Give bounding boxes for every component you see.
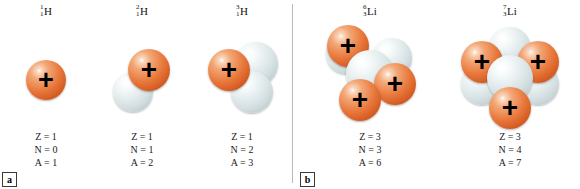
nucleon-counts: Z = 1N = 1A = 2: [92, 130, 192, 169]
element-symbol: H: [140, 6, 148, 17]
atomic-number: 1: [40, 11, 44, 18]
mass-and-atomic-number: 11: [40, 4, 44, 19]
element-symbol: Li: [507, 6, 517, 17]
stat-n: N = 0: [0, 143, 92, 156]
nucleus: +++: [440, 22, 580, 126]
panel-divider: [292, 4, 293, 183]
stat-a: A = 7: [440, 156, 580, 169]
stat-n: N = 4: [440, 143, 580, 156]
stat-n: N = 1: [92, 143, 192, 156]
nucleus: +: [192, 22, 292, 126]
element-symbol: Li: [367, 6, 377, 17]
stat-z: Z = 1: [192, 130, 292, 143]
nuclide-symbol: 11H: [0, 4, 92, 19]
nuclide-symbol: 63Li: [300, 4, 440, 19]
nuclide-symbol: 73Li: [440, 4, 580, 19]
panel-label-a: a: [2, 172, 17, 187]
proton-charge-icon: +: [208, 49, 250, 91]
nucleon-counts: Z = 3N = 4A = 7: [440, 130, 580, 169]
isotope-lithium-6: 63Li+++Z = 3N = 3A = 6: [300, 0, 440, 189]
atomic-number: 1: [136, 11, 140, 18]
isotope-diagram: 11H+Z = 1N = 0A = 121H+Z = 1N = 1A = 231…: [0, 0, 580, 189]
mass-and-atomic-number: 63: [363, 4, 367, 19]
isotope-hydrogen-1: 11H+Z = 1N = 0A = 1: [0, 0, 92, 189]
proton-charge-icon: +: [26, 60, 66, 100]
stat-n: N = 3: [300, 143, 440, 156]
nucleon-counts: Z = 3N = 3A = 6: [300, 130, 440, 169]
nucleus: +++: [300, 22, 440, 126]
proton-sphere: +: [128, 49, 170, 91]
proton-charge-icon: +: [128, 49, 170, 91]
mass-and-atomic-number: 21: [136, 4, 140, 19]
stat-z: Z = 1: [0, 130, 92, 143]
isotope-hydrogen-3: 31H+Z = 1N = 2A = 3: [192, 0, 292, 189]
atomic-number: 3: [363, 11, 367, 18]
mass-and-atomic-number: 31: [236, 4, 240, 19]
proton-sphere: +: [26, 60, 66, 100]
stat-a: A = 2: [92, 156, 192, 169]
atomic-number: 1: [236, 11, 240, 18]
stat-z: Z = 3: [300, 130, 440, 143]
nuclide-symbol: 31H: [192, 4, 292, 19]
isotope-lithium-7: 73Li+++Z = 3N = 4A = 7: [440, 0, 580, 189]
stat-z: Z = 3: [440, 130, 580, 143]
element-symbol: H: [44, 6, 52, 17]
atomic-number: 3: [503, 11, 507, 18]
proton-charge-icon: +: [489, 87, 531, 129]
mass-and-atomic-number: 73: [503, 4, 507, 19]
stat-a: A = 6: [300, 156, 440, 169]
nucleon-counts: Z = 1N = 2A = 3: [192, 130, 292, 169]
proton-charge-icon: +: [339, 79, 381, 121]
proton-sphere: +: [208, 49, 250, 91]
stat-a: A = 1: [0, 156, 92, 169]
panel-label-b: b: [300, 172, 315, 187]
nucleon-counts: Z = 1N = 0A = 1: [0, 130, 92, 169]
proton-sphere: +: [339, 79, 381, 121]
stat-n: N = 2: [192, 143, 292, 156]
nucleus: +: [92, 22, 192, 126]
proton-sphere: +: [489, 87, 531, 129]
stat-a: A = 3: [192, 156, 292, 169]
element-symbol: H: [240, 6, 248, 17]
nuclide-symbol: 21H: [92, 4, 192, 19]
stat-z: Z = 1: [92, 130, 192, 143]
nucleus: +: [0, 22, 92, 126]
isotope-hydrogen-2: 21H+Z = 1N = 1A = 2: [92, 0, 192, 189]
